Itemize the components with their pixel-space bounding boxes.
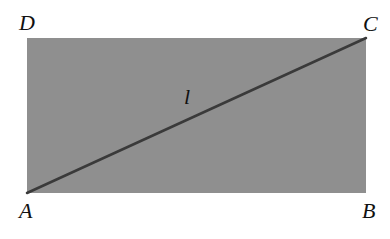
diagram-canvas: D C A B l bbox=[0, 0, 390, 239]
vertex-label-a: A bbox=[19, 200, 32, 222]
diagonal-label-l: l bbox=[184, 86, 190, 108]
vertex-label-d: D bbox=[19, 12, 35, 34]
rectangle-diagram bbox=[0, 0, 390, 239]
vertex-label-b: B bbox=[362, 200, 375, 222]
vertex-label-c: C bbox=[363, 13, 378, 35]
